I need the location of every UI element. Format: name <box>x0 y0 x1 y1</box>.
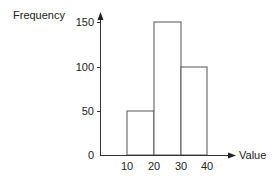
y-axis <box>97 18 101 155</box>
y-axis-label: Frequency <box>13 9 65 21</box>
bar-10-20 <box>127 111 154 155</box>
histogram-chart: 150 100 50 0 10 20 30 40 Frequency Value <box>0 0 275 183</box>
y-tick-50: 50 <box>82 105 94 117</box>
bars <box>127 22 207 155</box>
bar-20-30 <box>154 22 181 155</box>
x-tick-30: 30 <box>175 160 187 172</box>
x-axis-arrow-icon <box>228 153 236 159</box>
bar-30-40 <box>181 67 207 155</box>
y-tick-150: 150 <box>76 16 94 28</box>
y-tick-0: 0 <box>88 149 94 161</box>
x-tick-40: 40 <box>201 160 213 172</box>
y-axis-arrow-icon <box>98 12 104 20</box>
x-tick-20: 20 <box>148 160 160 172</box>
x-tick-10: 10 <box>121 160 133 172</box>
x-axis-label: Value <box>239 149 266 161</box>
y-tick-100: 100 <box>76 61 94 73</box>
